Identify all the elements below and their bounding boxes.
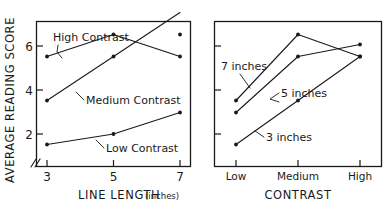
annotation-medium-contrast: Medium Contrast — [86, 94, 181, 107]
y-tick-label-2: 2 — [25, 128, 33, 142]
data-point — [45, 55, 49, 59]
figure-container: AVERAGE READING SCORE 6 4 2 — [0, 0, 391, 211]
data-point — [45, 143, 49, 147]
left-panel-y-ticks — [37, 46, 44, 134]
left-panel-x-ticks — [47, 160, 180, 167]
annotation-3-inches: 3 inches — [266, 131, 312, 144]
series-5-inches — [234, 43, 362, 115]
right-panel-x-ticks — [236, 160, 360, 167]
data-point — [358, 55, 362, 59]
annotation-medium-contrast-leader — [76, 92, 84, 100]
x-tick-label-7: 7 — [176, 170, 184, 184]
data-point — [358, 43, 362, 47]
annotation-5-inches: 5 inches — [281, 87, 327, 100]
annotation-low-contrast: Low Contrast — [106, 142, 179, 155]
x-tick-label-high: High — [348, 170, 372, 182]
data-point — [178, 55, 182, 59]
annotation-high-contrast: High Contrast — [53, 31, 129, 44]
x-tick-label-low: Low — [226, 170, 247, 182]
annotation-7-inches-leader — [240, 74, 250, 88]
data-point — [178, 33, 182, 37]
annotation-low-contrast-leader — [96, 140, 104, 148]
data-point — [234, 111, 238, 115]
data-point — [178, 111, 182, 115]
data-point — [234, 99, 238, 103]
annotation-5-inches-leader — [270, 93, 279, 102]
data-point — [296, 55, 300, 59]
data-point — [45, 99, 49, 103]
data-point — [296, 33, 300, 37]
series-low-contrast-line — [47, 113, 180, 145]
chart-svg: AVERAGE READING SCORE 6 4 2 — [0, 0, 391, 211]
left-x-axis-unit: (inches) — [145, 191, 179, 201]
annotation-7-inches: 7 inches — [221, 60, 267, 73]
x-tick-label-5: 5 — [110, 170, 118, 184]
data-point — [112, 55, 116, 59]
series-medium-contrast — [45, 13, 182, 103]
right-x-axis-title: CONTRAST — [264, 188, 332, 202]
data-point — [112, 132, 116, 136]
x-tick-label-medium: Medium — [277, 170, 319, 182]
y-axis-break-icon — [31, 159, 40, 167]
y-tick-label-4: 4 — [25, 84, 33, 98]
data-point — [234, 143, 238, 147]
x-tick-label-3: 3 — [43, 170, 51, 184]
y-axis-title: AVERAGE READING SCORE — [3, 17, 17, 183]
left-panel: 6 4 2 3 5 7 LINE LENGTH (inches) — [25, 13, 190, 203]
annotation-3-inches-leader — [255, 131, 264, 137]
right-panel: Low Medium High CONTRAST — [215, 22, 382, 203]
y-tick-label-6: 6 — [25, 40, 33, 54]
